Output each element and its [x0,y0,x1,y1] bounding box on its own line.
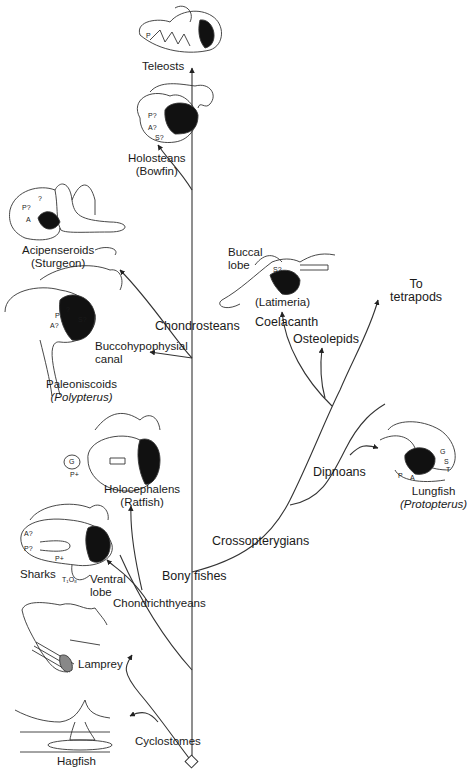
branch-osteolepids [321,348,325,398]
branch-ratfish [131,506,142,590]
glyph-ratfish-p: P+ [70,471,79,479]
ratfish-pituitary-drawing [64,413,160,491]
label-buccohypophysial-line2: canal [95,353,188,366]
label-chondrosteans: Chondrosteans [155,320,240,333]
label-lungfish: Lungfish (Protopterus) [400,485,467,511]
glyph-poly-q: ? [66,306,70,314]
label-holosteans-common: (Bowfin) [128,165,186,178]
glyph-holostean-p: P? [148,112,157,120]
label-teleosts: Teleosts [142,60,184,73]
label-buccohypophysial-line1: Buccohypophysial [95,340,188,353]
glyph-holostean-s: S? [155,134,164,142]
label-latimeria: (Latimeria) [255,296,310,309]
label-lungfish-name: Lungfish [400,485,467,498]
glyph-latimeria-s: S? [273,266,282,274]
glyph-ratfish-g: G [69,458,74,466]
label-holocephalens: Holocephalens (Ratfish) [104,483,180,509]
glyph-lungfish-t: T [446,466,450,474]
glyph-lungfish-a: A [410,474,415,482]
label-sharks: Sharks [20,568,56,581]
branch-dipnoans [290,404,385,505]
label-buccal-line2: lobe [228,259,263,272]
glyph-shark-to: T₁O₈ [62,576,77,584]
label-holosteans-name: Holosteans [128,152,186,165]
label-acipenseroids-name: Acipenseroids [22,244,94,257]
hagfish-pituitary-drawing [15,700,112,752]
label-paleoniscoids-name: Paleoniscoids [46,378,117,391]
label-buccal-lobe: Buccal lobe [228,246,263,272]
glyph-shark-a: A? [24,530,33,538]
label-acipenseroids-common: (Sturgeon) [22,257,94,270]
label-osteolepids: Osteolepids [293,333,359,346]
label-bony-fishes: Bony fishes [162,570,227,583]
glyph-acip-a: A [26,216,31,224]
glyph-acip-p: P? [22,204,31,212]
glyph-lungfish-g: G [440,448,445,456]
label-ventral-lobe: Ventral lobe [90,573,126,599]
label-dipnoans: Dipnoans [313,466,366,479]
glyph-shark-p-plus: P+ [55,555,64,563]
glyph-teleost-p: P [146,32,151,40]
label-buccal-line1: Buccal [228,246,263,259]
label-to-tetrapods: To tetrapods [390,278,442,304]
label-crossopterygians: Crossopterygians [212,535,309,548]
glyph-poly-p: P [55,312,60,320]
label-paleoniscoids: Paleoniscoids (Polypterus) [46,378,117,404]
label-acipenseroids: Acipenseroids (Sturgeon) [22,244,94,270]
branch-lungfish [350,446,378,455]
glyph-poly-a: A? [50,322,59,330]
glyph-acip-q: ? [38,195,42,203]
glyph-holostean-a: A? [148,124,157,132]
branch-hagfish [130,713,158,722]
label-cyclostomes: Cyclostomes [135,735,201,748]
glyph-shark-p: P? [24,545,33,553]
glyph-lungfish-s: S [444,458,449,466]
label-holocephalens-name: Holocephalens [104,483,180,496]
label-to-tetrapods-line2: tetrapods [390,291,442,304]
label-chondrichthyeans: Chondrichthyeans [113,597,206,610]
label-buccohypophysial-canal: Buccohypophysial canal [95,340,188,366]
label-lungfish-genus: (Protopterus) [400,498,467,511]
label-holosteans: Holosteans (Bowfin) [128,152,186,178]
label-ventral-line1: Ventral [90,573,126,586]
root-node-icon [185,755,198,768]
glyph-lungfish-p: P [398,472,403,480]
label-paleoniscoids-genus: (Polypterus) [46,391,117,404]
label-holocephalens-common: (Ratfish) [104,496,180,509]
label-coelacanth: Coelacanth [255,316,318,329]
glyph-poly-s: S? [78,316,87,324]
label-hagfish: Hagfish [57,755,96,768]
label-lamprey: Lamprey [78,658,123,671]
teleost-pituitary-drawing [139,6,221,52]
